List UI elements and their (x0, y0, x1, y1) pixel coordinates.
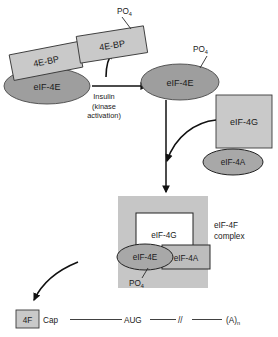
free-eif4a-label: eIF-4A (221, 158, 246, 167)
complex-eif4a-label: eIF-4A (174, 254, 199, 263)
released-4ebp-phosphate-connector (122, 17, 131, 29)
mrna-binding-arrow (34, 262, 78, 300)
mrna-cap-label: Cap (43, 316, 58, 325)
active-eif4e-label: eIF-4E (166, 78, 193, 88)
signal-label-line1: Insulin (93, 92, 114, 101)
signal-label-line3: activation) (87, 111, 121, 120)
eif4f-complex-name-line1: eIF-4F (214, 221, 238, 230)
released-4ebp-phosphate-label: PO4 (117, 7, 132, 17)
pathway-diagram: eIF-4E 4E-BP Insulin (kinase activation)… (0, 0, 278, 337)
released-4ebp-box-group: 4E-BP (76, 26, 147, 63)
free-eif4g-label: eIF-4G (230, 117, 258, 127)
mrna-start-codon-label: AUG (124, 316, 142, 325)
complex-eif4e-label: eIF-4E (133, 253, 158, 262)
mrna-4f-label: 4F (23, 316, 33, 325)
active-eif4e-phosphate-connector (200, 56, 207, 68)
active-eif4e-phosphate-label: PO4 (193, 45, 208, 55)
signal-label-line2: (kinase (92, 102, 116, 111)
eif4f-complex-name-line2: complex (214, 232, 245, 241)
inactive-eif4e-label: eIF-4E (33, 82, 60, 92)
mrna-break-symbol: // (178, 316, 183, 325)
complex-eif4g-label: eIF-4G (151, 231, 176, 240)
diagram-canvas: eIF-4E 4E-BP Insulin (kinase activation)… (0, 0, 278, 337)
mrna-polya-label: (A)n (226, 316, 240, 326)
